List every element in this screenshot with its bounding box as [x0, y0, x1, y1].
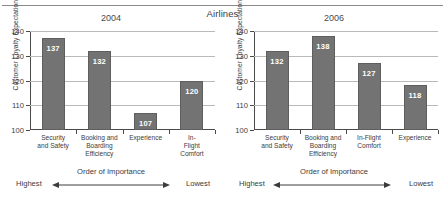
bar[interactable]: 118	[404, 85, 427, 130]
bar[interactable]: 132	[88, 51, 111, 130]
y-tick-mark	[26, 31, 30, 32]
bar-value-label: 132	[267, 57, 288, 66]
x-category-label: Booking and Boarding Efficiency	[305, 134, 342, 159]
x-category-label: Experience	[129, 134, 162, 142]
panel-title-2004: 2004	[0, 13, 222, 23]
y-tick-label: 110	[236, 101, 248, 110]
importance-lowest-label: Lowest	[186, 179, 210, 188]
x-category-label: Experience	[399, 134, 432, 142]
x-category-label: Booking and Boarding Efficiency	[81, 134, 118, 159]
double-arrow-icon	[52, 180, 170, 190]
gridline	[254, 31, 438, 32]
bar-value-label: 137	[43, 44, 64, 53]
x-axis-label-2004: Order of Importance	[0, 167, 222, 176]
chart-panel-2006: 2006 Customer Loyalty Expectations 10011…	[223, 0, 445, 210]
importance-highest-label: Highest	[16, 179, 42, 188]
y-tick-label: 110	[12, 101, 24, 110]
x-tick-mark	[438, 130, 439, 134]
y-tick-mark	[250, 130, 254, 131]
x-category-label: Security and Safety	[261, 134, 293, 150]
bar[interactable]: 120	[180, 81, 203, 131]
y-tick-label: 140	[11, 27, 24, 36]
gridline	[30, 31, 215, 32]
x-category-label: In-Flight Comfort	[357, 134, 381, 150]
bar[interactable]: 132	[266, 51, 289, 130]
importance-arrow-2004: Highest Lowest	[0, 178, 222, 192]
y-tick-mark	[250, 81, 254, 82]
double-arrow-icon	[273, 180, 391, 190]
chart-panel-2004: 2004 Customer Loyalty Expectations 10011…	[0, 0, 222, 210]
x-tick-mark	[169, 130, 170, 134]
bar-value-label: 120	[181, 87, 202, 96]
y-tick-mark	[250, 31, 254, 32]
y-tick-label: 130	[235, 51, 248, 60]
bar-value-label: 132	[89, 57, 110, 66]
bar-value-label: 118	[405, 91, 426, 100]
y-tick-mark	[26, 130, 30, 131]
y-tick-mark	[26, 81, 30, 82]
y-tick-mark	[250, 105, 254, 106]
importance-lowest-label: Lowest	[409, 179, 433, 188]
y-tick-label: 140	[235, 27, 248, 36]
y-tick-label: 100	[235, 126, 248, 135]
x-tick-mark	[123, 130, 124, 134]
x-category-label: Security and Safety	[37, 134, 69, 150]
x-tick-mark	[215, 130, 216, 134]
bar[interactable]: 127	[358, 63, 381, 130]
y-tick-mark	[250, 56, 254, 57]
bar-value-label: 107	[135, 119, 156, 128]
bar[interactable]: 107	[134, 113, 157, 130]
x-tick-mark	[76, 130, 77, 134]
y-tick-label: 130	[11, 51, 24, 60]
y-tick-mark	[26, 56, 30, 57]
x-tick-mark	[392, 130, 393, 134]
bar[interactable]: 138	[312, 36, 335, 130]
plot-area-2004: 100110120130140137Security and Safety132…	[30, 31, 215, 130]
figure: Airlines 2004 Customer Loyalty Expectati…	[0, 0, 445, 210]
bar-value-label: 127	[359, 69, 380, 78]
importance-highest-label: Highest	[239, 179, 265, 188]
y-tick-label: 120	[11, 76, 24, 85]
panel-title-2006: 2006	[223, 13, 445, 23]
plot-area-2006: 100110120130140132Security and Safety138…	[254, 31, 438, 130]
y-tick-label: 120	[235, 76, 248, 85]
y-tick-mark	[26, 105, 30, 106]
x-category-label: In-Flight Comfort	[180, 134, 203, 159]
importance-arrow-2006: Highest Lowest	[223, 178, 445, 192]
x-axis-label-2006: Order of Importance	[223, 167, 445, 176]
x-tick-mark	[346, 130, 347, 134]
x-tick-mark	[300, 130, 301, 134]
bar-value-label: 138	[313, 42, 334, 51]
y-tick-label: 100	[11, 126, 24, 135]
bar[interactable]: 137	[42, 38, 65, 130]
